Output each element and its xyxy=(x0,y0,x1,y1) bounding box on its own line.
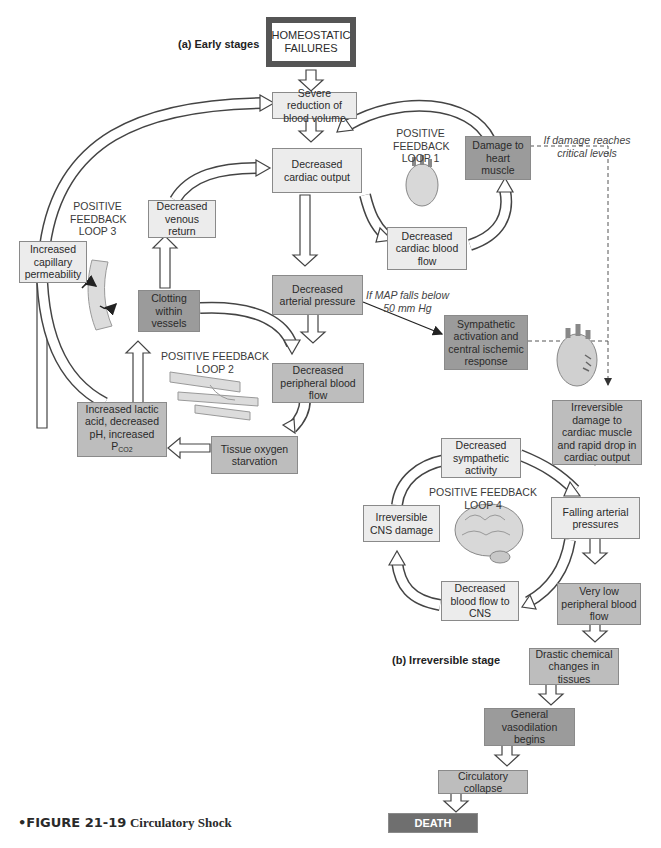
damaged-heart-icon xyxy=(557,324,597,386)
loop3-label: POSITIVE FEEDBACK LOOP 3 xyxy=(70,200,125,238)
increased-capillary-permeability-box: Increased capillary permeability xyxy=(19,241,87,283)
drastic-chemical-changes-box: Drastic chemical changes in tissues xyxy=(529,648,619,685)
lactic-acid-box: Increased lactic acid, decreased pH, inc… xyxy=(77,402,167,457)
blood-vessel-icon xyxy=(82,260,116,330)
loop2-label: POSITIVE FEEDBACK LOOP 2 xyxy=(160,350,270,375)
irreversible-cns-damage-box: Irreversible CNS damage xyxy=(363,505,440,542)
sympathetic-activation-box: Sympathetic activation and central ische… xyxy=(444,315,528,370)
early-stages-label: (a) Early stages xyxy=(178,38,259,50)
clotted-vessel-icon xyxy=(170,372,258,420)
decreased-peripheral-blood-flow-box: Decreased peripheral blood flow xyxy=(272,363,364,403)
loop1-label: POSITIVE FEEDBACK LOOP 1 xyxy=(393,127,448,165)
loop4-label: POSITIVE FEEDBACK LOOP 4 xyxy=(428,486,538,511)
clotting-within-vessels-box: Clotting within vessels xyxy=(138,290,200,332)
map-annotation: If MAP falls below 50 mm Hg xyxy=(365,289,450,314)
damage-heart-muscle-box: Damage to heart muscle xyxy=(465,136,531,180)
brain-icon xyxy=(455,504,523,563)
circulatory-collapse-box: Circulatory collapse xyxy=(438,770,528,794)
decreased-cardiac-output-box: Decreased cardiac output xyxy=(272,148,362,193)
figure-caption: •FIGURE 21-19 Circulatory Shock xyxy=(18,815,232,831)
homeostatic-failures-box: HOMEOSTATIC FAILURES xyxy=(266,17,356,67)
death-box: DEATH xyxy=(388,813,478,833)
severe-reduction-box: Severe reduction of blood volume xyxy=(272,92,357,119)
decreased-blood-flow-cns-box: Decreased blood flow to CNS xyxy=(441,581,519,621)
critical-levels-annotation: If damage reaches critical levels xyxy=(542,134,632,159)
decreased-cardiac-blood-flow-box: Decreased cardiac blood flow xyxy=(387,227,467,270)
irreversible-damage-box: Irreversible damage to cardiac muscle an… xyxy=(552,400,642,465)
lactic-acid-text: Increased lactic acid, decreased pH, inc… xyxy=(85,403,159,453)
figure-number: •FIGURE 21-19 xyxy=(18,815,126,830)
decreased-sympathetic-activity-box: Decreased sympathetic activity xyxy=(441,438,521,478)
decreased-arterial-pressure-box: Decreased arterial pressure xyxy=(272,275,363,315)
very-low-peripheral-box: Very low peripheral blood flow xyxy=(557,583,641,625)
figure-title: Circulatory Shock xyxy=(130,815,232,830)
co2-subscript: CO2 xyxy=(118,446,132,453)
decreased-venous-return-box: Decreased venous return xyxy=(148,200,216,238)
tissue-oxygen-starvation-box: Tissue oxygen starvation xyxy=(211,436,298,474)
general-vasodilation-box: General vasodilation begins xyxy=(484,708,575,746)
falling-arterial-pressures-box: Falling arterial pressures xyxy=(551,497,640,539)
irreversible-stage-label: (b) Irreversible stage xyxy=(392,654,500,666)
